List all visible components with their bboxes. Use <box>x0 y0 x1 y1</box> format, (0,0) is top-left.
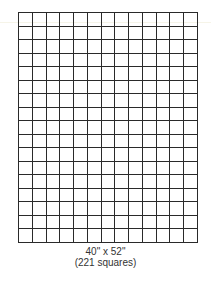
square-grid <box>18 12 198 243</box>
grid-square <box>129 135 143 149</box>
grid-square <box>74 54 88 68</box>
grid-square <box>47 162 61 176</box>
grid-square <box>33 135 47 149</box>
grid-square <box>143 148 157 162</box>
grid-square <box>19 108 33 122</box>
grid-square <box>129 81 143 95</box>
grid-square <box>102 216 116 230</box>
grid-square <box>184 94 198 108</box>
grid-square <box>115 216 129 230</box>
grid-square <box>33 189 47 203</box>
grid-square <box>19 189 33 203</box>
grid-square <box>170 189 184 203</box>
grid-square <box>115 13 129 27</box>
grid-square <box>74 13 88 27</box>
grid-square <box>88 175 102 189</box>
grid-square <box>170 40 184 54</box>
grid-square <box>157 135 171 149</box>
grid-square <box>33 81 47 95</box>
grid-square <box>33 67 47 81</box>
grid-square <box>19 67 33 81</box>
grid-square <box>102 202 116 216</box>
grid-square <box>170 67 184 81</box>
grid-square <box>47 216 61 230</box>
grid-square <box>157 13 171 27</box>
grid-square <box>60 189 74 203</box>
grid-square <box>184 27 198 41</box>
grid-square <box>184 202 198 216</box>
grid-square <box>157 148 171 162</box>
grid-square <box>129 54 143 68</box>
grid-square <box>60 135 74 149</box>
grid-square <box>115 148 129 162</box>
grid-square <box>170 121 184 135</box>
grid-square <box>74 229 88 243</box>
grid-square <box>143 94 157 108</box>
grid-square <box>102 13 116 27</box>
grid-square <box>184 148 198 162</box>
grid-square <box>74 27 88 41</box>
grid-square <box>143 162 157 176</box>
grid-square <box>129 27 143 41</box>
grid-square <box>33 13 47 27</box>
grid-square <box>170 216 184 230</box>
grid-square <box>47 108 61 122</box>
grid-square <box>19 54 33 68</box>
grid-square <box>115 40 129 54</box>
grid-square <box>143 40 157 54</box>
grid-square <box>74 135 88 149</box>
grid-square <box>33 202 47 216</box>
grid-square <box>184 175 198 189</box>
grid-square <box>184 40 198 54</box>
grid-square <box>102 229 116 243</box>
grid-square <box>170 13 184 27</box>
grid-square <box>102 81 116 95</box>
grid-square <box>60 13 74 27</box>
grid-square <box>143 54 157 68</box>
grid-square <box>60 175 74 189</box>
grid-square <box>157 67 171 81</box>
grid-square <box>47 229 61 243</box>
grid-square <box>88 189 102 203</box>
grid-square <box>184 13 198 27</box>
grid-square <box>19 148 33 162</box>
grid-square <box>143 216 157 230</box>
grid-square <box>60 67 74 81</box>
grid-square <box>33 229 47 243</box>
grid-square <box>33 216 47 230</box>
grid-square <box>74 162 88 176</box>
grid-square <box>143 108 157 122</box>
grid-square <box>33 40 47 54</box>
grid-square <box>60 216 74 230</box>
grid-square <box>47 40 61 54</box>
grid-square <box>115 175 129 189</box>
grid-square <box>102 27 116 41</box>
grid-square <box>60 27 74 41</box>
grid-square <box>102 175 116 189</box>
grid-square <box>19 229 33 243</box>
grid-square <box>74 202 88 216</box>
grid-square <box>88 148 102 162</box>
grid-square <box>143 67 157 81</box>
grid-square <box>157 27 171 41</box>
grid-square <box>143 202 157 216</box>
grid-square <box>115 162 129 176</box>
grid-square <box>47 189 61 203</box>
grid-square <box>19 175 33 189</box>
grid-square <box>102 54 116 68</box>
grid-square <box>170 108 184 122</box>
grid-square <box>74 40 88 54</box>
grid-square <box>47 135 61 149</box>
grid-square <box>19 162 33 176</box>
grid-square <box>88 67 102 81</box>
grid-square <box>74 175 88 189</box>
grid-square <box>102 94 116 108</box>
grid-square <box>19 202 33 216</box>
grid-square <box>184 189 198 203</box>
grid-square <box>129 121 143 135</box>
grid-square <box>102 148 116 162</box>
grid-square <box>115 135 129 149</box>
grid-square <box>170 148 184 162</box>
grid-square <box>115 108 129 122</box>
grid-square <box>115 189 129 203</box>
